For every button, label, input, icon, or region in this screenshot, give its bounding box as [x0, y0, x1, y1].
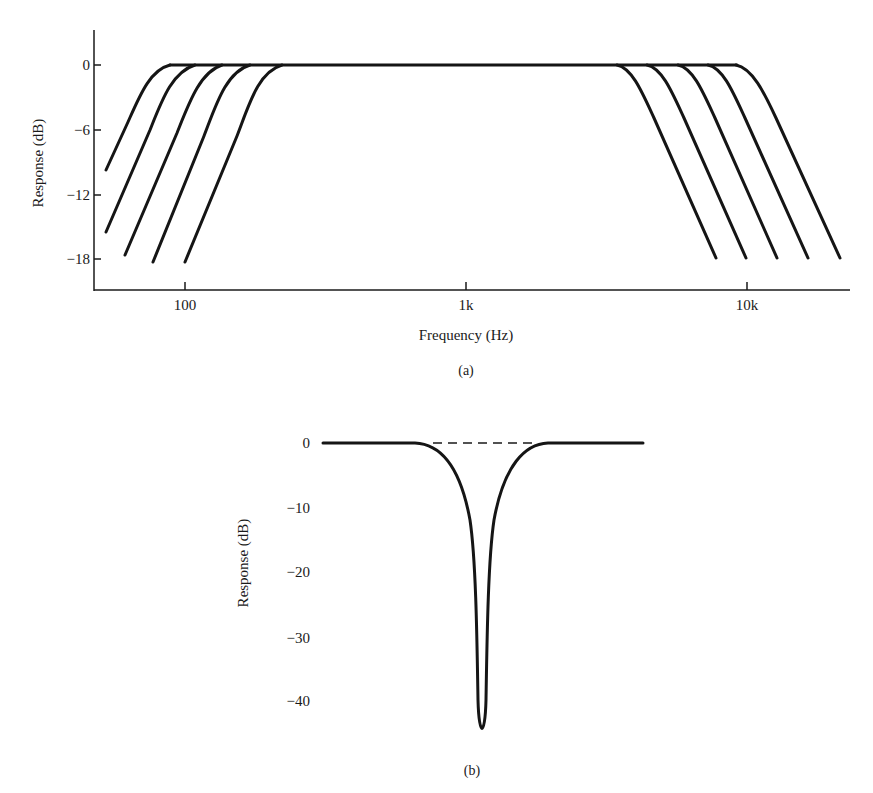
highpass-curve-3 [125, 65, 222, 255]
chart-a-ytick-minus6: −6 [74, 122, 90, 138]
chart-b-ytick-minus30: −30 [287, 630, 310, 646]
chart-a-y-ticks [94, 65, 101, 259]
chart-a-xtick-1k: 1k [459, 297, 475, 313]
notch-curve [323, 443, 643, 729]
lowpass-curve-1 [617, 65, 716, 258]
figure: 0 −6 −12 −18 100 1k 10k Frequency (Hz) R… [0, 0, 873, 793]
chart-b-ytick-minus40: −40 [287, 693, 310, 709]
chart-b-caption: (b) [464, 763, 481, 779]
chart-a-caption: (a) [458, 363, 474, 379]
chart-a-x-ticks [185, 282, 747, 290]
highpass-curve-5 [185, 65, 282, 262]
chart-a-ytick-minus12: −12 [67, 187, 90, 203]
chart-a-xtick-100: 100 [174, 297, 197, 313]
lowpass-curve-4 [708, 65, 808, 258]
chart-a-xlabel: Frequency (Hz) [419, 327, 514, 344]
chart-a: 0 −6 −12 −18 100 1k 10k Frequency (Hz) R… [30, 30, 850, 379]
chart-b-ytick-minus20: −20 [287, 564, 310, 580]
highpass-curve-4 [153, 65, 250, 262]
lowpass-curve-5 [736, 65, 840, 258]
chart-b-ytick-minus10: −10 [287, 500, 310, 516]
chart-b-ytick-0: 0 [303, 435, 311, 451]
chart-a-ylabel: Response (dB) [30, 119, 47, 208]
highpass-curve-2 [106, 65, 195, 232]
lowpass-curve-3 [678, 65, 777, 258]
chart-a-ytick-minus18: −18 [67, 251, 90, 267]
lowpass-curve-2 [647, 65, 746, 258]
chart-a-curves [106, 65, 840, 262]
chart-b-ylabel: Response (dB) [235, 519, 252, 608]
chart-a-xtick-10k: 10k [736, 297, 759, 313]
chart-b: 0 −10 −20 −30 −40 Response (dB) (b) [235, 435, 643, 779]
chart-a-ytick-0: 0 [83, 57, 91, 73]
